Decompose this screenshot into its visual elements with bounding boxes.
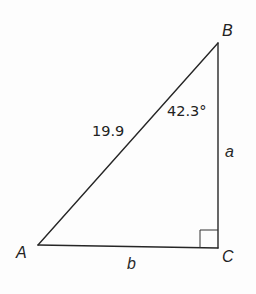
hypotenuse-ab xyxy=(38,43,218,245)
vertex-label-b: B xyxy=(222,22,233,39)
side-ac xyxy=(38,245,218,248)
vertex-label-a: A xyxy=(15,244,27,261)
side-label-a: a xyxy=(225,143,234,160)
angle-b-label: 42.3° xyxy=(167,103,207,119)
right-angle-marker xyxy=(200,230,218,248)
side-label-b: b xyxy=(127,255,136,272)
right-triangle-diagram: A B C a b 19.9 42.3° xyxy=(0,0,256,294)
vertex-label-c: C xyxy=(222,248,234,265)
hypotenuse-length-label: 19.9 xyxy=(92,123,124,139)
